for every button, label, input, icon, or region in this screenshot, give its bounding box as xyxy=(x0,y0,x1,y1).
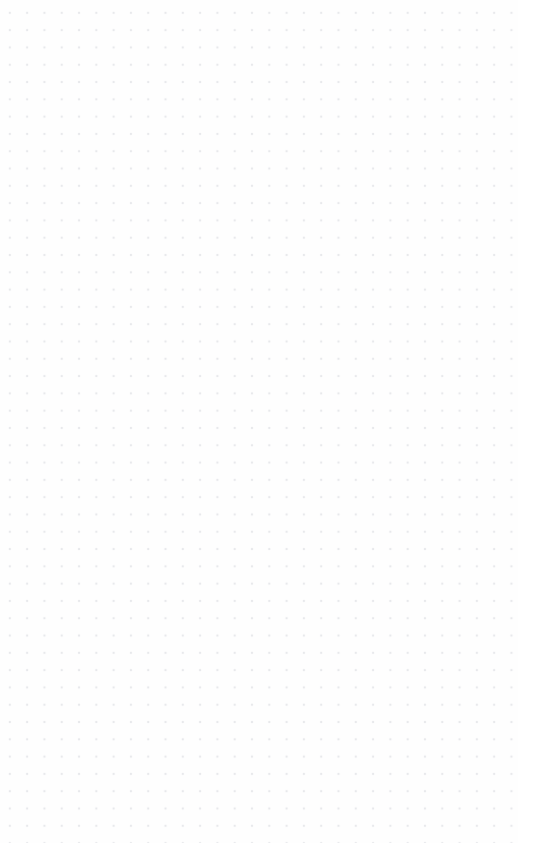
app-root xyxy=(0,0,533,863)
canvas-bottom-margin xyxy=(0,843,533,863)
canvas-viewport[interactable] xyxy=(0,0,533,863)
dot-grid-background xyxy=(0,0,518,843)
canvas-right-margin xyxy=(518,0,533,863)
